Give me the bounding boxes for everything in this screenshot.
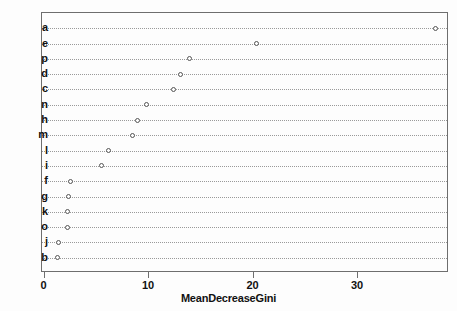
x-axis-tick-label: 30 (351, 279, 363, 291)
gridline-row (42, 258, 447, 259)
gridline-row (42, 212, 447, 213)
data-point (55, 255, 60, 260)
gridline-row (42, 28, 447, 29)
x-axis-tick-mark (148, 272, 149, 278)
data-point (66, 194, 71, 199)
gridline-row (42, 135, 447, 136)
gridline-row (42, 59, 447, 60)
data-point (171, 87, 176, 92)
x-axis-tick-mark (357, 272, 358, 278)
gridline-row (42, 197, 447, 198)
data-point (135, 118, 140, 123)
gridline-row (42, 44, 447, 45)
gridline-row (42, 105, 447, 106)
data-point (144, 102, 149, 107)
x-axis-tick-label: 10 (142, 279, 154, 291)
data-point (130, 133, 135, 138)
data-point (65, 225, 70, 230)
x-axis-title: MeanDecreaseGini (0, 292, 457, 304)
gridline-row (42, 120, 447, 121)
data-point (254, 41, 259, 46)
gridline-row (42, 227, 447, 228)
data-point (68, 179, 73, 184)
data-point (178, 72, 183, 77)
x-axis-tick-mark (44, 272, 45, 278)
gridline-row (42, 181, 447, 182)
data-point (65, 209, 70, 214)
data-point (106, 148, 111, 153)
variable-importance-plot: aepdcnhmlifgkojb MeanDecreaseGini 010203… (0, 0, 457, 311)
gridline-row (42, 74, 447, 75)
gridline-row (42, 151, 447, 152)
data-point (99, 163, 104, 168)
data-point (187, 56, 192, 61)
x-axis-tick-label: 20 (246, 279, 258, 291)
gridline-row (42, 89, 447, 90)
plot-area (41, 12, 448, 272)
data-point (56, 240, 61, 245)
gridline-row (42, 242, 447, 243)
data-point (433, 26, 438, 31)
x-axis-tick-mark (253, 272, 254, 278)
x-axis-tick-label: 0 (40, 279, 46, 291)
